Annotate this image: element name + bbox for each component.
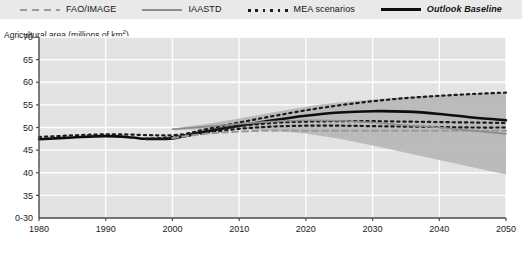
x-tick-label: 1980 (29, 224, 49, 234)
agricultural-area-chart: 0-303540455055606570 1980199020002010202… (0, 19, 522, 255)
chart-legend: FAO/IMAGE IAASTD MEA scenarios Outlook B… (0, 0, 522, 19)
y-axis-tick-labels: 0-303540455055606570 (15, 32, 39, 223)
legend-item-iaastd[interactable]: IAASTD (142, 0, 221, 19)
x-tick-label: 2030 (363, 224, 383, 234)
legend-item-outlook-baseline[interactable]: Outlook Baseline (381, 0, 502, 19)
solid-gray-swatch (142, 5, 182, 14)
x-axis-tick-labels: 19801990200020102020203020402050 (29, 218, 516, 234)
y-tick-label: 70 (23, 32, 33, 42)
x-tick-label: 2010 (229, 224, 249, 234)
legend-label-mea-scenarios: MEA scenarios (294, 5, 355, 14)
y-tick-label: 40 (23, 168, 33, 178)
x-tick-label: 2020 (296, 224, 316, 234)
y-tick-label: 55 (23, 100, 33, 110)
y-tick-label: 60 (23, 77, 33, 87)
legend-label-outlook-baseline: Outlook Baseline (427, 5, 502, 14)
dashed-gray-swatch (20, 5, 60, 14)
dotted-black-swatch (248, 5, 288, 14)
x-tick-label: 2040 (429, 224, 449, 234)
y-tick-label: 50 (23, 123, 33, 133)
legend-label-fao-image: FAO/IMAGE (66, 5, 116, 14)
chart-page: FAO/IMAGE IAASTD MEA scenarios Outlook B… (0, 0, 522, 255)
x-tick-label: 2000 (162, 224, 182, 234)
thick-black-swatch (381, 5, 421, 14)
legend-item-mea-scenarios[interactable]: MEA scenarios (248, 0, 355, 19)
y-tick-label: 65 (23, 55, 33, 65)
legend-item-fao-image[interactable]: FAO/IMAGE (20, 0, 116, 19)
legend-label-iaastd: IAASTD (188, 5, 221, 14)
y-tick-label: 35 (23, 191, 33, 201)
y-tick-label: 45 (23, 145, 33, 155)
y-tick-label: 0-30 (15, 213, 33, 223)
x-tick-label: 2050 (496, 224, 516, 234)
x-tick-label: 1990 (96, 224, 116, 234)
